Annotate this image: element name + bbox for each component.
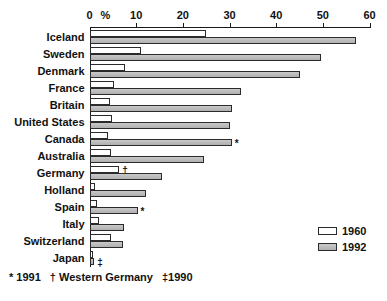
legend-label: 1960 (342, 225, 366, 237)
bar-holland-1992 (90, 190, 147, 197)
bar-row: Australia (0, 148, 387, 165)
category-label-spain: Spain (0, 201, 85, 213)
legend-label: 1992 (342, 241, 366, 253)
x-tick-label-0: 0 (86, 9, 92, 22)
x-tick-60 (370, 23, 371, 27)
x-tick-label-10: 10 (130, 9, 142, 22)
x-tick-label-40: 40 (270, 9, 282, 22)
category-label-japan: Japan (0, 252, 85, 264)
chart-legend: 19601992 (318, 224, 366, 256)
bar-denmark-1960 (90, 64, 126, 71)
bar-denmark-1992 (90, 71, 300, 78)
bar-row: France (0, 80, 387, 97)
x-tick-10 (136, 23, 137, 27)
x-axis-tick-labels: 0102030405060% (0, 9, 387, 23)
footnote: * 1991† Western Germany‡1990 (9, 271, 202, 284)
bar-canada-1960 (90, 132, 108, 139)
bar-row: Spain* (0, 199, 387, 216)
x-tick-50 (323, 23, 324, 27)
bar-united-states-1992 (90, 122, 230, 129)
category-label-switzerland: Switzerland (0, 235, 85, 247)
category-label-holland: Holland (0, 184, 85, 196)
bar-spain-1960 (90, 200, 98, 207)
footnote-part: * 1991 (9, 271, 41, 283)
footnote-part: † Western Germany (50, 271, 153, 283)
bar-spain-1992 (90, 207, 138, 214)
category-label-canada: Canada (0, 133, 85, 145)
category-label-italy: Italy (0, 218, 85, 230)
bar-britain-1960 (90, 98, 110, 105)
bar-britain-1992 (90, 105, 232, 112)
bar-france-1960 (90, 81, 114, 88)
category-label-united-states: United States (0, 116, 85, 128)
bar-row: Canada* (0, 131, 387, 148)
bar-row: Denmark (0, 63, 387, 80)
bar-row: Britain (0, 97, 387, 114)
bar-italy-1992 (90, 224, 124, 231)
x-tick-40 (276, 23, 277, 27)
bar-row: Sweden (0, 46, 387, 63)
bar-holland-1960 (90, 183, 96, 190)
category-label-sweden: Sweden (0, 48, 85, 60)
x-tick-label-30: 30 (223, 9, 235, 22)
category-label-iceland: Iceland (0, 31, 85, 43)
bar-italy-1960 (90, 217, 99, 224)
bar-canada-1992 (90, 139, 232, 146)
bar-japan-1960 (90, 251, 94, 258)
bar-row: Iceland (0, 29, 387, 46)
x-tick-label-60: 60 (363, 9, 375, 22)
bar-germany-1992 (90, 173, 162, 180)
annotation-marker: ‡ (97, 258, 103, 268)
bar-row: Holland (0, 182, 387, 199)
x-tick-30 (230, 23, 231, 27)
x-tick-label-50: 50 (317, 9, 329, 22)
bar-iceland-1992 (90, 37, 356, 44)
bar-row: Germany† (0, 165, 387, 182)
bar-australia-1992 (90, 156, 205, 163)
category-label-france: France (0, 82, 85, 94)
category-label-australia: Australia (0, 150, 85, 162)
x-tick-20 (183, 23, 184, 27)
bar-switzerland-1992 (90, 241, 124, 248)
bar-germany-1960 (90, 166, 120, 173)
bar-france-1992 (90, 88, 241, 95)
category-label-britain: Britain (0, 99, 85, 111)
percent-axis-label: % (100, 9, 110, 22)
legend-item-1960: 1960 (318, 224, 366, 238)
white-swatch (318, 227, 337, 235)
bar-chart: 0102030405060% IcelandSwedenDenmarkFranc… (0, 0, 387, 301)
footnote-part: ‡1990 (162, 271, 193, 283)
bar-united-states-1960 (90, 115, 113, 122)
bar-switzerland-1960 (90, 234, 111, 241)
bar-row: United States (0, 114, 387, 131)
x-tick-label-20: 20 (177, 9, 189, 22)
bar-japan-1992 (90, 258, 95, 265)
bar-sweden-1960 (90, 47, 141, 54)
bar-iceland-1960 (90, 30, 207, 37)
bar-australia-1960 (90, 149, 111, 156)
gray-swatch (318, 243, 337, 251)
category-label-germany: Germany (0, 167, 85, 179)
bar-sweden-1992 (90, 54, 321, 61)
x-axis-line (90, 27, 371, 28)
category-label-denmark: Denmark (0, 65, 85, 77)
legend-item-1992: 1992 (318, 240, 366, 254)
